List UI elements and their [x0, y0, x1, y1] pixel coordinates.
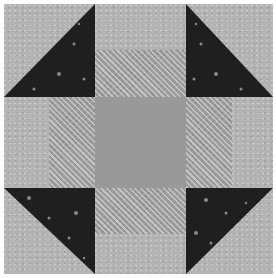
strip-bottom-outer	[95, 234, 186, 274]
strip-left-inner	[49, 97, 95, 188]
strip-top-inner	[95, 50, 186, 97]
strip-left-outer	[4, 97, 49, 188]
strip-top-outer	[95, 4, 186, 50]
dark-triangle-top-left	[4, 4, 95, 97]
quilt-block	[4, 4, 273, 274]
hst-top-right	[186, 4, 273, 97]
dark-triangle-bottom-left	[4, 188, 95, 274]
hst-top-left	[4, 4, 95, 97]
dark-triangle-bottom-right	[186, 188, 273, 274]
dark-triangle-top-right	[186, 4, 273, 97]
strip-bottom-inner	[95, 188, 186, 234]
strip-right-outer	[232, 97, 273, 188]
center-square	[95, 97, 186, 188]
hst-bottom-left	[4, 188, 95, 274]
hst-bottom-right	[186, 188, 273, 274]
strip-right-inner	[186, 97, 232, 188]
